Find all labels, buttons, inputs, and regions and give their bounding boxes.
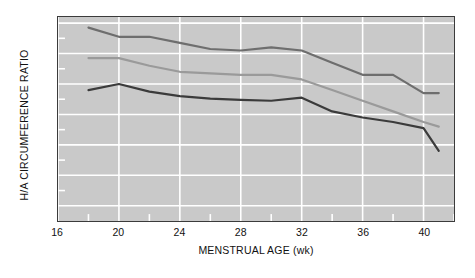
- x-tick-label: 16: [37, 226, 77, 238]
- x-tick-label: 24: [159, 226, 199, 238]
- x-tick-label: 20: [98, 226, 138, 238]
- x-tick-label: 32: [282, 226, 322, 238]
- x-tick-label: 40: [404, 226, 444, 238]
- x-tick-label: 28: [221, 226, 261, 238]
- x-axis-label: MENSTRUAL AGE (wk): [57, 244, 455, 256]
- y-axis-label: H/A CIRCUMFERENCE RATIO: [18, 15, 30, 235]
- x-tick-label: 36: [343, 226, 383, 238]
- chart-figure: 0.70.80.91.01.11.21.3 16202428323640 H/A…: [0, 0, 475, 278]
